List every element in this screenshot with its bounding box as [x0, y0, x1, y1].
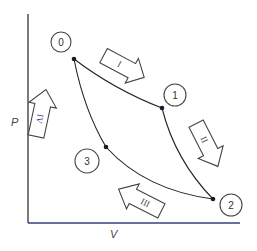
x-axis-label: V: [110, 228, 119, 240]
state-point-1: [160, 106, 165, 111]
state-label-2: 2: [220, 194, 242, 216]
pv-diagram: P V 0 1 2 3 I II III IV: [0, 0, 257, 251]
state-label-0: 0: [51, 32, 71, 52]
svg-text:2: 2: [228, 200, 234, 211]
state-point-2: [211, 197, 216, 202]
process-arrow-III: III: [112, 177, 167, 224]
process-arrow-I: I: [97, 43, 151, 89]
state-label-3: 3: [75, 149, 99, 173]
svg-text:0: 0: [58, 37, 64, 48]
process-curve-3-0: [74, 59, 106, 147]
svg-text:1: 1: [172, 90, 178, 101]
state-point-0: [72, 57, 77, 62]
y-axis-label: P: [11, 116, 19, 128]
state-point-3: [104, 145, 109, 150]
process-arrow-II: II: [184, 117, 231, 172]
state-label-1: 1: [164, 84, 186, 106]
svg-text:3: 3: [84, 156, 90, 167]
